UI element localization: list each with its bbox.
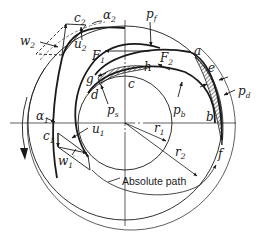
svg-text:c2: c2 <box>74 11 86 27</box>
svg-text:a: a <box>194 44 201 58</box>
svg-text:w1′: w1′ <box>58 154 75 170</box>
svg-text:pf: pf <box>146 7 158 23</box>
rotation-arrow <box>22 97 27 150</box>
diagram-canvas: c2 α2 w2 u2 pf F1 F2 a e g h c d ps pb p… <box>0 0 264 235</box>
svg-text:f: f <box>217 147 225 161</box>
svg-text:c: c <box>128 77 135 91</box>
impeller-diagram: c2 α2 w2 u2 pf F1 F2 a e g h c d ps pb p… <box>0 0 264 235</box>
svg-text:g: g <box>86 72 94 86</box>
svg-text:α1: α1 <box>36 109 49 125</box>
hatched-region-gh <box>98 66 150 85</box>
svg-text:e: e <box>208 61 215 75</box>
svg-text:pd: pd <box>238 84 251 100</box>
svg-text:r2: r2 <box>175 145 186 161</box>
svg-text:b: b <box>206 110 214 124</box>
svg-text:w2: w2 <box>20 34 35 50</box>
svg-text:u1: u1 <box>92 122 105 138</box>
svg-text:α2: α2 <box>103 8 116 24</box>
svg-text:F2: F2 <box>159 51 173 67</box>
absolute-path-label: Absolute path <box>122 175 186 187</box>
rotation-arrow-head-icon <box>20 148 28 160</box>
svg-text:pb: pb <box>173 103 186 119</box>
svg-text:r1: r1 <box>154 121 165 137</box>
svg-text:d: d <box>91 88 99 102</box>
svg-text:u2: u2 <box>74 37 87 53</box>
svg-text:ps: ps <box>107 103 119 119</box>
svg-text:h: h <box>144 60 152 74</box>
svg-text:F1: F1 <box>91 49 105 65</box>
